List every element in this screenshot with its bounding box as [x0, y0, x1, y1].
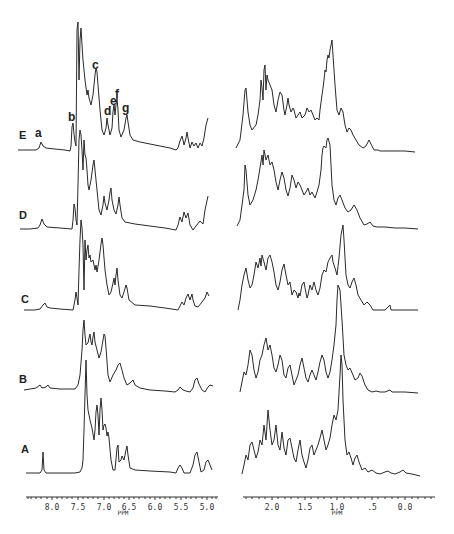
spectrum-c-aromatic: [24, 220, 209, 310]
tick-label-2-0: 2.0: [265, 503, 280, 512]
spectrum-e-aliphatic: [236, 40, 415, 152]
tick-label-7-0: 7.0: [97, 503, 112, 512]
spectrum-label-a: A: [21, 443, 29, 455]
x-axis-left: 8.0 7.5 7.0 6.5 6.0 5.5 5.0 PPM: [26, 497, 218, 516]
x-axis-right: 2.0 1.5 1.0 .5 0.0 PPM: [243, 497, 435, 516]
spectrum-a-aromatic: [26, 360, 212, 473]
spectrum-b-aliphatic: [240, 285, 418, 393]
spectrum-c-aliphatic: [238, 225, 418, 310]
peak-label-a: a: [35, 126, 42, 140]
tick-label-1-5: 1.5: [298, 503, 313, 512]
spectrum-a-aliphatic: [242, 355, 420, 476]
spectrum-e-aromatic: [18, 22, 208, 151]
peak-label-g: g: [122, 101, 129, 115]
nmr-figure: E D C B A a b c d e f g 8.0 7.5 7.0 6.5 …: [0, 0, 454, 534]
spectrum-d-aromatic: [20, 130, 208, 230]
spectrum-b-aromatic: [24, 320, 213, 392]
spectrum-label-d: D: [19, 209, 27, 221]
tick-label-5-5: 5.5: [174, 503, 189, 512]
spectrum-label-e: E: [19, 129, 26, 141]
peak-label-b: b: [68, 110, 75, 124]
tick-label-7-5: 7.5: [71, 503, 86, 512]
tick-label-6-0: 6.0: [148, 503, 163, 512]
tick-label-8-0: 8.0: [45, 503, 60, 512]
x-axis-label-left: PPM: [118, 509, 129, 516]
spectrum-d-aliphatic: [237, 138, 418, 229]
tick-label-0-5: .5: [367, 503, 377, 512]
tick-label-5-0: 5.0: [200, 503, 215, 512]
tick-label-0-0: 0.0: [398, 503, 413, 512]
x-axis-label-right: PPM: [332, 509, 343, 516]
spectrum-label-c: C: [21, 293, 29, 305]
spectrum-label-b: B: [19, 373, 27, 385]
